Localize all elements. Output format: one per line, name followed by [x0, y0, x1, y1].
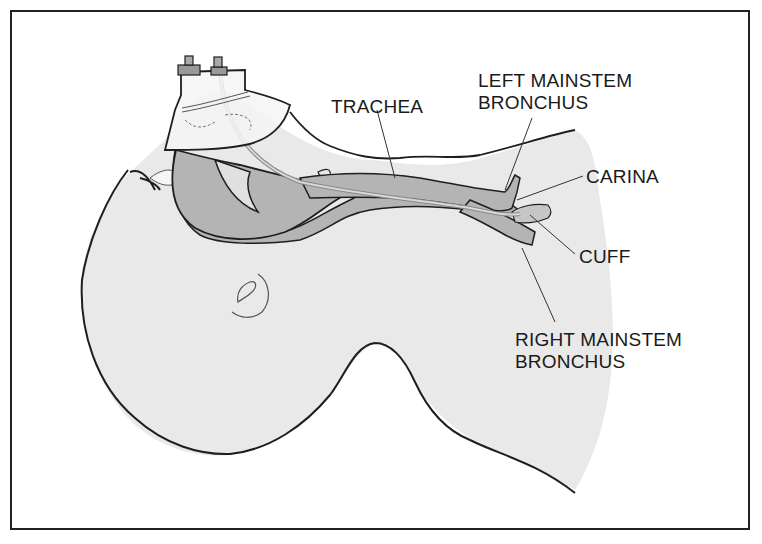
label-right-mainstem-bronchus: RIGHT MAINSTEM BRONCHUS — [515, 329, 682, 373]
mask-connector-left — [178, 65, 200, 75]
label-line: BRONCHUS — [515, 351, 682, 373]
label-line: RIGHT MAINSTEM — [515, 329, 682, 351]
intubation-illustration — [0, 0, 762, 544]
label-left-mainstem-bronchus: LEFT MAINSTEM BRONCHUS — [478, 70, 632, 114]
label-line: LEFT MAINSTEM — [478, 70, 632, 92]
label-trachea: TRACHEA — [331, 96, 423, 118]
mask-connector-right — [211, 67, 227, 75]
label-carina: CARINA — [586, 166, 659, 188]
label-cuff: CUFF — [579, 246, 630, 268]
label-line: BRONCHUS — [478, 92, 632, 114]
